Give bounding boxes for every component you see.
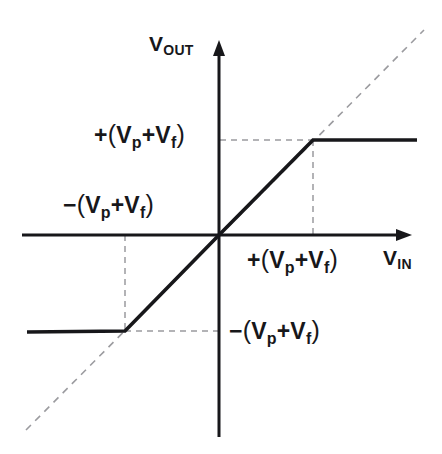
- v-symbol-2: V: [308, 247, 324, 273]
- x-axis-negative-tick-label: −(Vp+Vf): [63, 192, 154, 217]
- sign-glyph: −: [229, 318, 243, 344]
- v-subscript-1: p: [101, 204, 111, 221]
- v-symbol-2: V: [124, 192, 140, 218]
- open-paren: (: [108, 120, 117, 148]
- v-subscript-2: f: [171, 134, 177, 151]
- x-axis-arrowhead-icon: [396, 229, 412, 241]
- open-paren: (: [261, 245, 270, 273]
- v-subscript-2: f: [306, 330, 312, 347]
- v-symbol-1: V: [251, 318, 267, 344]
- v-subscript-2: f: [140, 204, 146, 221]
- open-paren: (: [243, 316, 252, 344]
- close-paren: ): [311, 316, 320, 344]
- v-symbol-1: V: [116, 122, 132, 148]
- close-paren: ): [176, 120, 185, 148]
- sign-glyph: −: [63, 192, 77, 218]
- v-subscript-1: p: [267, 330, 277, 347]
- plus-glyph: +: [295, 247, 309, 273]
- plus-glyph: +: [142, 122, 156, 148]
- v-subscript-2: f: [324, 259, 330, 276]
- y-axis-positive-tick-label: +(Vp+Vf): [94, 122, 185, 147]
- transfer-characteristic-figure: VOUT VIN +(Vp+Vf) −(Vp+Vf) +(Vp+Vf) −(Vp…: [0, 0, 442, 454]
- plus-glyph: +: [277, 318, 291, 344]
- plot-canvas: [0, 0, 442, 454]
- x-axis-positive-tick-label: +(Vp+Vf): [247, 247, 338, 272]
- close-paren: ): [329, 245, 338, 273]
- y-axis-label: VOUT: [149, 33, 194, 54]
- y-axis-arrowhead-icon: [213, 40, 225, 56]
- y-axis-label-main: V: [149, 32, 163, 55]
- v-symbol-2: V: [155, 122, 171, 148]
- y-axis-label-subscript: OUT: [163, 42, 193, 58]
- x-axis-label: VIN: [383, 247, 412, 268]
- sign-glyph: +: [247, 247, 261, 273]
- y-axis-negative-tick-label: −(Vp+Vf): [229, 318, 320, 343]
- v-symbol-1: V: [269, 247, 285, 273]
- plus-glyph: +: [111, 192, 125, 218]
- x-axis-label-main: V: [383, 246, 397, 269]
- v-symbol-2: V: [290, 318, 306, 344]
- sign-glyph: +: [94, 122, 108, 148]
- close-paren: ): [145, 190, 154, 218]
- open-paren: (: [77, 190, 86, 218]
- v-subscript-1: p: [132, 134, 142, 151]
- x-axis-label-subscript: IN: [397, 256, 412, 272]
- v-subscript-1: p: [285, 259, 295, 276]
- v-symbol-1: V: [85, 192, 101, 218]
